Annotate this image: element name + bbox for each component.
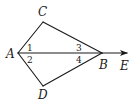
point-label-c: C: [38, 5, 47, 19]
angle-label-3: 3: [76, 43, 82, 53]
geometry-diagram: A C D B E 1 2 3 4: [0, 0, 132, 102]
segment-db: [43, 53, 102, 86]
angle-label-4: 4: [76, 55, 82, 65]
point-label-d: D: [37, 88, 48, 102]
angle-label-1: 1: [27, 43, 33, 53]
point-label-e: E: [119, 59, 129, 73]
point-label-b: B: [98, 58, 108, 72]
segment-cb: [43, 22, 102, 53]
angle-label-2: 2: [27, 55, 33, 65]
point-label-a: A: [5, 47, 15, 61]
